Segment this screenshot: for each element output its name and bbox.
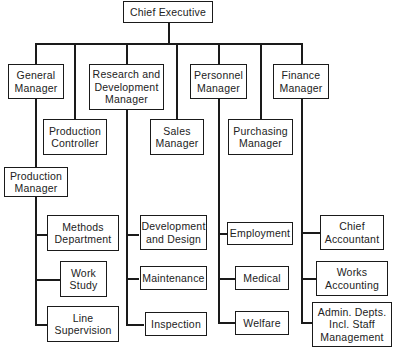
connector-line (126, 278, 139, 280)
node-welfare: Welfare (235, 311, 289, 335)
node-admin-depts: Admin. Depts. Incl. Staff Management (312, 302, 392, 347)
node-general-manager: General Manager (8, 64, 64, 99)
connector-line (176, 43, 178, 119)
connector-line (126, 234, 139, 236)
node-personnel-manager: Personnel Manager (190, 64, 247, 99)
node-works-accounting: Works Accounting (316, 261, 388, 296)
connector-line (35, 43, 37, 65)
node-purchasing-manager: Purchasing Manager (228, 119, 293, 155)
node-methods-department: Methods Department (47, 215, 119, 251)
node-work-study: Work Study (60, 261, 107, 297)
connector-line (301, 232, 321, 234)
connector-line (301, 43, 303, 65)
connector-line (35, 98, 37, 168)
connector-line (301, 98, 303, 324)
node-production-manager: Production Manager (4, 167, 68, 197)
node-employment: Employment (227, 222, 293, 245)
node-sales-manager: Sales Manager (150, 119, 204, 155)
node-development-and-design: Development and Design (140, 215, 207, 250)
connector-line (218, 322, 236, 324)
connector-line (168, 23, 170, 44)
node-medical: Medical (235, 266, 289, 290)
connector-line (260, 43, 262, 119)
node-inspection: Inspection (145, 312, 207, 336)
node-chief-executive: Chief Executive (123, 1, 213, 23)
node-chief-accountant: Chief Accountant (320, 215, 384, 250)
node-line-supervision: Line Supervision (47, 306, 119, 342)
connector-line (218, 43, 220, 65)
connector-line (35, 279, 61, 281)
connector-line (126, 324, 144, 326)
connector-line (218, 98, 220, 324)
connector-line (126, 43, 128, 65)
connector-line (74, 43, 76, 119)
node-finance-manager: Finance Manager (273, 64, 329, 99)
org-chart: Chief Executive General Manager Research… (0, 0, 397, 349)
node-maintenance: Maintenance (140, 266, 207, 290)
connector-line (126, 109, 128, 325)
connector-line (218, 278, 236, 280)
connector-line (301, 278, 317, 280)
node-production-controller: Production Controller (43, 119, 107, 155)
node-rnd-manager: Research and Development Manager (89, 64, 164, 110)
connector-line (35, 196, 37, 326)
